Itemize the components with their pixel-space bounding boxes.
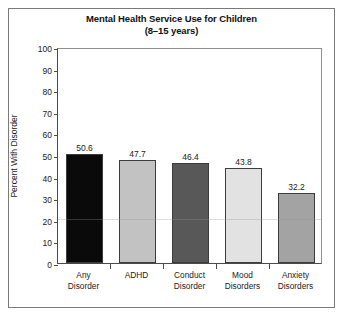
y-axis-tick-label: 30 xyxy=(30,196,52,205)
x-axis-category-label: ConductDisorder xyxy=(163,270,216,291)
y-axis-tick-mark xyxy=(54,135,58,136)
y-axis-tick-label: 100 xyxy=(30,45,52,54)
y-axis-tick-mark xyxy=(54,222,58,223)
y-axis-tick-label: 80 xyxy=(30,88,52,97)
x-axis-category-label-line: ADHD xyxy=(110,270,163,281)
y-axis-tick-label: 40 xyxy=(30,174,52,183)
x-axis-category-label-line: Conduct xyxy=(163,270,216,281)
x-axis-category-label-line: Disorder xyxy=(57,281,110,292)
y-axis-tick-label: 70 xyxy=(30,110,52,119)
x-axis-tick-mark xyxy=(163,264,164,269)
bar-value-label: 50.6 xyxy=(76,143,93,153)
y-axis-tick-mark xyxy=(54,71,58,72)
y-axis-tick-label: 0 xyxy=(30,261,52,270)
bar: 50.6 xyxy=(66,154,103,263)
x-axis-category-label-line: Disorders xyxy=(216,281,269,292)
x-axis-category-label-line: Disorder xyxy=(163,281,216,292)
y-axis-tick-label: 20 xyxy=(30,218,52,227)
figure-container: Mental Health Service Use for Children (… xyxy=(0,0,343,316)
bar-value-label: 47.7 xyxy=(129,149,146,159)
y-axis-tick-mark xyxy=(54,49,58,50)
y-axis-tick-label: 50 xyxy=(30,153,52,162)
x-axis-category-label-line: Anxiety xyxy=(269,270,322,281)
chart-title-line-1: Mental Health Service Use for Children xyxy=(20,13,323,25)
bar-value-label: 46.4 xyxy=(182,152,199,162)
bar: 43.8 xyxy=(225,168,262,263)
chart-title: Mental Health Service Use for Children (… xyxy=(20,13,323,37)
bar-value-label: 32.2 xyxy=(288,182,305,192)
y-axis-tick-label: 90 xyxy=(30,66,52,75)
y-axis-tick-mark xyxy=(54,114,58,115)
y-axis-tick-label: 10 xyxy=(30,239,52,248)
x-axis-category-label: MoodDisorders xyxy=(216,270,269,291)
y-axis-title: Percent With Disorder xyxy=(7,48,21,264)
bar: 47.7 xyxy=(119,160,156,263)
y-axis-tick-mark xyxy=(54,179,58,180)
x-axis-category-label: AnxietyDisorders xyxy=(269,270,322,291)
x-axis-tick-mark xyxy=(110,264,111,269)
x-axis-category-label-line: Mood xyxy=(216,270,269,281)
y-axis-tick-mark xyxy=(54,92,58,93)
x-axis-category-label-line: Any xyxy=(57,270,110,281)
y-axis-tick-mark xyxy=(54,200,58,201)
x-axis-category-label: AnyDisorder xyxy=(57,270,110,291)
y-axis-title-label: Percent With Disorder xyxy=(9,114,19,197)
x-axis-tick-mark xyxy=(216,264,217,269)
chart-title-line-2: (8–15 years) xyxy=(20,25,323,37)
y-axis-tick-mark xyxy=(54,265,58,266)
scan-artifact-line xyxy=(58,219,321,220)
bar: 46.4 xyxy=(172,163,209,263)
bar: 32.2 xyxy=(278,193,315,263)
plot-area: 010203040506070809010050.647.746.443.832… xyxy=(57,48,322,264)
x-axis-tick-mark xyxy=(269,264,270,269)
y-axis-tick-mark xyxy=(54,243,58,244)
y-axis-tick-label: 60 xyxy=(30,131,52,140)
y-axis-tick-mark xyxy=(54,157,58,158)
bar-value-label: 43.8 xyxy=(235,157,252,167)
x-axis-category-label-line: Disorders xyxy=(269,281,322,292)
x-axis-category-label: ADHD xyxy=(110,270,163,281)
